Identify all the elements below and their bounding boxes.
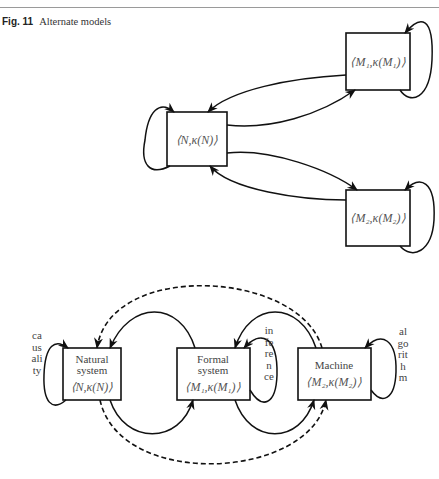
bottom-diagram: Natural system ⟨N,κ(N)⟩ Formal system ⟨M… xyxy=(44,286,396,464)
machine-math: ⟨M₂,κ(M₂)⟩ xyxy=(306,375,361,389)
natural-line2: system xyxy=(77,364,108,376)
node-M2-label: ⟨M₂,κ(M₂)⟩ xyxy=(350,211,405,225)
edge-M2-to-N xyxy=(210,166,346,200)
machine-line1: Machine xyxy=(315,359,354,371)
edge-formal-to-machine xyxy=(235,400,314,434)
node-M1-label: ⟨M₁,κ(M₁)⟩ xyxy=(350,55,405,69)
natural-math: ⟨N,κ(N)⟩ xyxy=(71,380,114,394)
edge-N-to-M1 xyxy=(227,90,355,126)
formal-math: ⟨M₁,κ(M₁)⟩ xyxy=(185,380,240,394)
loop-label-algorithm: algorithm xyxy=(397,326,409,384)
edge-formal-to-natural xyxy=(110,312,195,348)
formal-line2: system xyxy=(198,364,229,376)
top-diagram: ⟨M₁,κ(M₁)⟩ ⟨N,κ(N)⟩ ⟨M₂,κ(M₂)⟩ xyxy=(144,22,434,253)
dashed-edge-natural-to-machine xyxy=(100,400,326,464)
loop-label-causality: causality xyxy=(31,330,43,376)
node-N-label: ⟨N,κ(N)⟩ xyxy=(176,133,219,147)
edge-N-to-M2 xyxy=(227,152,357,190)
edge-machine-to-formal xyxy=(235,312,316,348)
diagram-canvas: ⟨M₁,κ(M₁)⟩ ⟨N,κ(N)⟩ ⟨M₂,κ(M₂)⟩ Natural s… xyxy=(0,0,439,479)
loop-label-inference: inference xyxy=(264,325,274,383)
edge-natural-to-formal xyxy=(110,400,193,434)
dashed-edge-machine-to-natural xyxy=(97,286,322,348)
node-machine-box xyxy=(298,348,371,400)
